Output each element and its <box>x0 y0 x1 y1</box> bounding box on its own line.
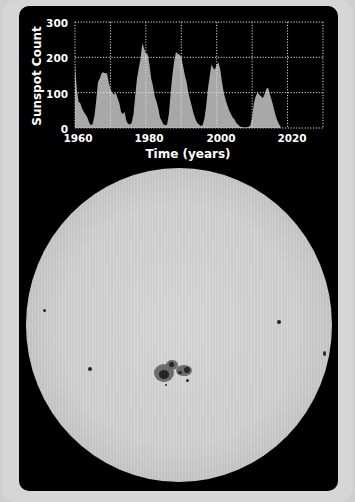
y-tick-label: 300 <box>46 17 68 29</box>
sunspot-group-umbra <box>178 371 182 374</box>
x-axis-title: Time (years) <box>145 147 230 161</box>
x-tick-label: 2000 <box>206 132 235 144</box>
sunspot-chart: 300 200 100 0 1960 1980 2000 2020 Time (… <box>0 0 355 170</box>
sunspot-small <box>277 320 281 324</box>
y-axis-title: Sunspot Count <box>30 26 44 126</box>
x-tick-label: 1980 <box>134 132 163 144</box>
sunspot-small <box>165 384 167 386</box>
sunspot-small <box>88 367 92 371</box>
sunspot-group-umbra <box>169 362 174 367</box>
x-tick-label: 1960 <box>63 132 92 144</box>
sunspot-small <box>323 351 326 356</box>
sunspot-group-umbra <box>184 367 190 373</box>
x-tick-labels: 1960 1980 2000 2020 <box>63 132 306 144</box>
y-tick-labels: 300 200 100 0 <box>46 17 68 135</box>
sunspot-group-umbra <box>159 370 169 379</box>
sunspot-small <box>43 309 46 312</box>
sunspot-group-penumbra <box>176 365 192 376</box>
x-tick-label: 2020 <box>277 132 306 144</box>
sunspot-area-series <box>75 43 281 128</box>
sunspot-group-penumbra <box>154 364 174 382</box>
y-tick-label: 100 <box>46 88 68 100</box>
sunspot-small <box>186 379 189 382</box>
y-tick-label: 200 <box>46 52 68 64</box>
sun-disk <box>26 168 332 482</box>
sunspot-group-penumbra <box>166 360 178 370</box>
